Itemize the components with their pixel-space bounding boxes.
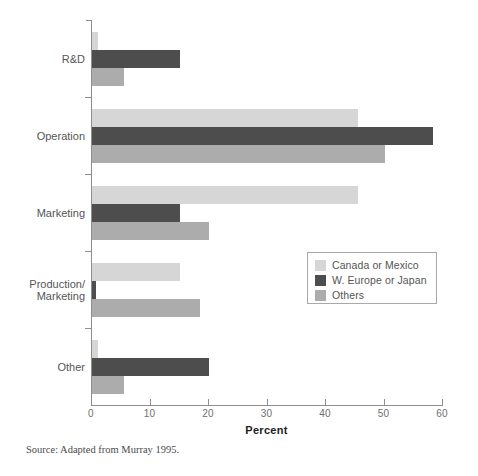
legend-item-canada-or-mexico: Canada or Mexico: [315, 258, 436, 272]
bar: [92, 376, 124, 394]
bar: [92, 145, 385, 163]
legend-item-others: Others: [315, 288, 436, 302]
x-tick-40: [325, 399, 326, 406]
x-tick-20: [208, 399, 209, 406]
bar: [92, 32, 98, 50]
category-label-group: Production/Marketing: [5, 278, 85, 302]
y-axis-group-tick: [85, 97, 91, 98]
bar: [92, 127, 433, 145]
x-tick-label-60: 60: [427, 408, 457, 419]
legend-swatch-w-europe-or-japan: [315, 275, 326, 286]
x-tick-60: [442, 399, 443, 406]
bar: [92, 186, 358, 204]
bar: [92, 299, 200, 317]
category-label-group: Other: [5, 361, 85, 373]
x-tick-10: [150, 399, 151, 406]
x-tick-label-40: 40: [310, 408, 340, 419]
category-label-text: R&D: [5, 53, 85, 65]
bar-chart: 0102030405060 R&DOperationMarketingProdu…: [0, 0, 478, 476]
bar: [92, 263, 180, 281]
bar: [92, 68, 124, 86]
category-label-text: Operation: [5, 130, 85, 142]
category-label-group: Marketing: [5, 207, 85, 219]
y-axis-group-tick: [85, 328, 91, 329]
x-tick-label-0: 0: [76, 408, 106, 419]
x-tick-50: [384, 399, 385, 406]
legend-label-canada-or-mexico: Canada or Mexico: [332, 259, 419, 271]
category-label-group: Operation: [5, 130, 85, 142]
bar: [92, 50, 180, 68]
x-tick-label-30: 30: [252, 408, 282, 419]
legend-label-others: Others: [332, 289, 364, 301]
legend-label-w-europe-or-japan: W. Europe or Japan: [332, 274, 427, 286]
legend-swatch-canada-or-mexico: [315, 260, 326, 271]
x-axis-title: Percent: [91, 424, 442, 436]
chart-legend: Canada or Mexico W. Europe or Japan Othe…: [307, 252, 437, 304]
x-tick-0: [91, 399, 92, 406]
category-label-text: Production/: [5, 278, 85, 290]
x-tick-label-50: 50: [369, 408, 399, 419]
bar: [92, 204, 180, 222]
bar: [92, 222, 209, 240]
x-tick-30: [267, 399, 268, 406]
bar: [92, 281, 96, 299]
y-axis-group-tick: [85, 251, 91, 252]
category-label-text: Marketing: [5, 290, 85, 302]
y-axis-top-tick: [86, 20, 92, 21]
category-label-group: R&D: [5, 53, 85, 65]
source-note: Source: Adapted from Murray 1995.: [26, 444, 179, 455]
legend-swatch-others: [315, 290, 326, 301]
bar: [92, 340, 98, 358]
bar: [92, 109, 358, 127]
x-tick-label-10: 10: [135, 408, 165, 419]
category-label-text: Marketing: [5, 207, 85, 219]
category-label-text: Other: [5, 361, 85, 373]
x-tick-label-20: 20: [193, 408, 223, 419]
legend-item-w-europe-or-japan: W. Europe or Japan: [315, 273, 436, 287]
bar: [92, 358, 209, 376]
y-axis-group-tick: [85, 174, 91, 175]
